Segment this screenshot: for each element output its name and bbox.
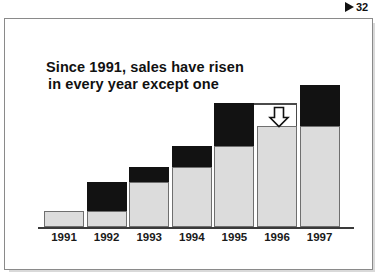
triangle-right-marker-icon <box>345 2 354 12</box>
x-axis-label-1993: 1993 <box>129 231 169 243</box>
arrow-down-hollow-icon <box>268 106 290 128</box>
frame-shadow-bottom <box>9 270 375 272</box>
bar-segment-base-1991 <box>44 211 84 227</box>
x-axis-label-1995: 1995 <box>214 231 254 243</box>
bar-1993 <box>129 167 169 227</box>
x-axis-label-1994: 1994 <box>172 231 212 243</box>
bar-segment-increment-1995 <box>214 103 254 146</box>
page-marker: 32 <box>345 1 368 13</box>
bar-1996 <box>257 126 297 227</box>
bar-1994 <box>172 146 212 227</box>
bar-segment-increment-1992 <box>87 182 127 211</box>
slide-title-line-1: Since 1991, sales have risen <box>46 59 244 75</box>
x-axis-label-1992: 1992 <box>87 231 127 243</box>
x-axis-label-1997: 1997 <box>300 231 340 243</box>
slide-canvas: 32 Since 1991, sales have risen in every… <box>0 0 384 278</box>
bar-1991 <box>44 211 84 227</box>
x-axis-label-1991: 1991 <box>44 231 84 243</box>
bar-1997 <box>300 85 340 227</box>
bar-segment-increment-1994 <box>172 146 212 167</box>
frame-shadow-right <box>373 23 375 272</box>
bar-segment-base-1997 <box>300 126 340 227</box>
reference-line-horizontal <box>254 103 297 105</box>
reference-line-vertical <box>296 103 298 126</box>
bar-segment-base-1995 <box>214 146 254 227</box>
bar-segment-increment-1997 <box>300 85 340 126</box>
x-axis-label-1996: 1996 <box>257 231 297 243</box>
x-axis-line <box>38 227 354 229</box>
bar-1992 <box>87 182 127 227</box>
bar-segment-base-1993 <box>129 182 169 227</box>
x-axis-labels: 1991199219931994199519961997 <box>38 231 354 249</box>
bar-1995 <box>214 103 254 227</box>
bar-segment-increment-1993 <box>129 167 169 182</box>
bar-segment-base-1996 <box>257 126 297 227</box>
page-marker-label: 32 <box>356 1 368 13</box>
bar-segment-base-1994 <box>172 167 212 227</box>
bar-segment-base-1992 <box>87 211 127 227</box>
